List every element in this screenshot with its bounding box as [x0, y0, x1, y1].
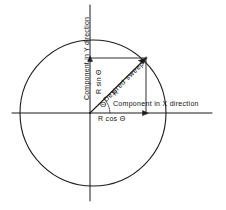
origin-point [89, 112, 91, 114]
theta-angle-label: Θ [100, 100, 106, 109]
r-cos-theta-label: R cos Θ [98, 115, 125, 122]
x-component-arrowhead [143, 111, 149, 116]
x-direction-label: Component in X direction [113, 100, 199, 107]
y-direction-label: Component in Y direction [83, 17, 90, 100]
r-sin-theta-label: R sin Θ [95, 69, 102, 94]
figure-canvas: Component in Y direction R sin Θ Desired… [0, 0, 226, 210]
